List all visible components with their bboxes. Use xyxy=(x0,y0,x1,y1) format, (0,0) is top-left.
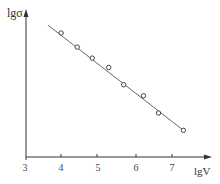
x-tick-label-4: 4 xyxy=(59,163,64,173)
data-point-marker xyxy=(59,31,63,35)
data-point-marker xyxy=(122,83,126,87)
data-point-marker xyxy=(181,128,185,132)
data-point-marker xyxy=(107,65,111,69)
data-point-marker xyxy=(141,94,145,98)
fit-line xyxy=(48,25,183,130)
y-axis-arrow-icon xyxy=(24,9,29,17)
x-tick-label-7: 7 xyxy=(170,163,175,173)
x-axis-arrow-icon xyxy=(204,155,212,160)
x-tick-label-6: 6 xyxy=(134,163,139,173)
data-point-marker xyxy=(90,56,94,60)
chart-plot-area xyxy=(0,0,220,184)
data-point-marker xyxy=(75,45,79,49)
x-tick-label-3: 3 xyxy=(23,163,28,173)
x-tick-label-5: 5 xyxy=(96,163,101,173)
y-axis-label: lgσ xyxy=(7,8,23,19)
x-axis-label: lgV xyxy=(194,166,211,177)
data-point-marker xyxy=(156,111,160,115)
data-layer xyxy=(48,25,186,132)
